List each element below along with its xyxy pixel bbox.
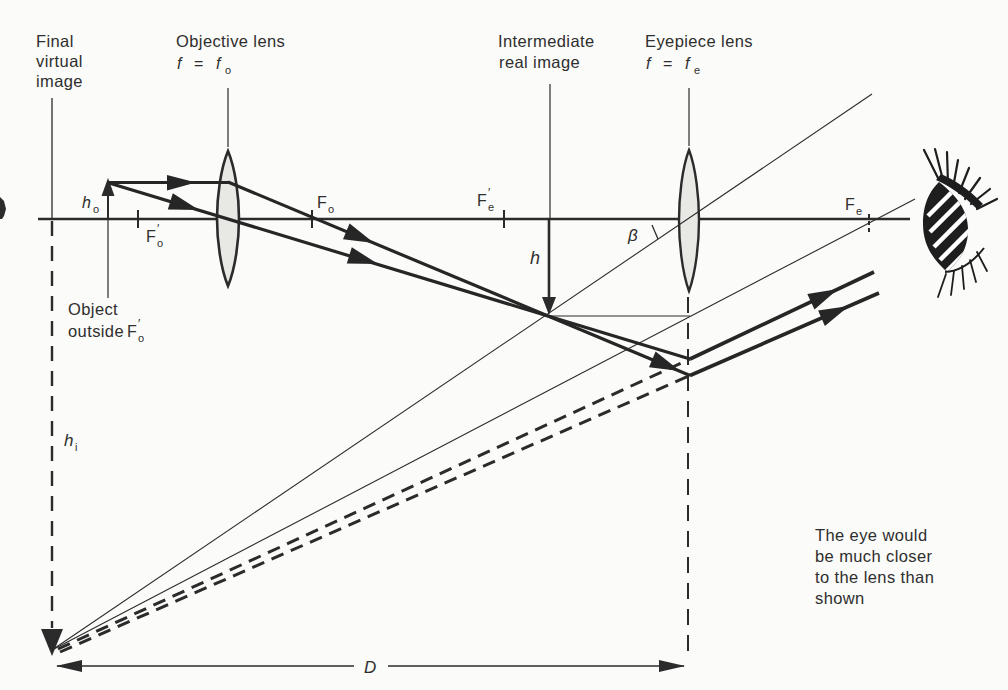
final-image-label: image [36, 72, 83, 90]
h-o-symbol: h [82, 194, 91, 211]
ray-central-to-eyepiece [548, 316, 690, 359]
beta-angle-tick [652, 225, 658, 239]
eye-note: The eye would [815, 526, 928, 544]
final-image-label: virtual [36, 52, 83, 70]
ray-arrowhead [818, 306, 849, 326]
h-i-subscript: i [75, 441, 77, 453]
final-image-arrowhead [41, 629, 63, 656]
ray-arrowhead [343, 224, 374, 244]
D-arrowhead-right [659, 660, 685, 672]
page-edge-mark [0, 197, 6, 219]
eyepiece-focal-label: = [663, 55, 672, 72]
ray-arrowhead [347, 247, 378, 264]
eyepiece-focal-subscript: e [694, 64, 700, 76]
F-e-subscript: e [856, 205, 862, 217]
F-o-prime-subscript: o [157, 237, 163, 249]
F-o-subscript: o [328, 203, 334, 215]
intermediate-image-label: Intermediate [498, 32, 595, 50]
beta-symbol: β [627, 226, 638, 245]
eyepiece-lens [679, 150, 699, 291]
virtual-ray-extension-upper [58, 359, 690, 649]
eye-note: to the lens than [815, 568, 934, 586]
eyepiece-focal-label: f [646, 55, 652, 72]
objective-lens-label: Objective lens [176, 32, 285, 50]
ray-parallel-emergent [690, 293, 879, 376]
F-e-symbol: F [845, 196, 855, 213]
object-label-F-prime: ′ [138, 317, 141, 331]
object-label-F: F [127, 323, 137, 340]
object-label: Object [68, 300, 118, 318]
h-arrowhead [542, 297, 556, 315]
object-label-F-subscript: o [138, 332, 144, 344]
h-i-symbol: h [64, 431, 73, 450]
object-label: outside [68, 322, 124, 340]
ray-arrowhead [807, 289, 838, 310]
microscope-ray-diagram: Final virtual image Objective lens f = f… [0, 0, 1008, 690]
F-e-prime-prime: ′ [488, 186, 491, 200]
eye-note: be much closer [815, 547, 933, 565]
focal-ray-construction-line [52, 199, 915, 650]
objective-focal-subscript: o [225, 64, 231, 76]
objective-focal-label: = [194, 55, 203, 72]
eyepiece-lens-label: Eyepiece lens [645, 32, 753, 50]
F-o-prime-symbol: F [146, 228, 156, 245]
D-symbol: D [364, 658, 376, 677]
h-o-subscript: o [93, 203, 99, 215]
F-e-prime-subscript: e [488, 201, 494, 213]
virtual-ray-extension-lower [60, 376, 690, 653]
ray-central-emergent [690, 272, 874, 359]
eye-note: shown [815, 589, 865, 607]
objective-focal-label: f [177, 55, 183, 72]
F-o-symbol: F [317, 194, 327, 211]
objective-focal-label: f [216, 55, 222, 72]
F-o-prime-prime: ′ [157, 222, 160, 236]
intermediate-image-label: real image [499, 53, 580, 71]
object-arrowhead [102, 178, 115, 196]
h-symbol: h [530, 248, 540, 268]
D-arrowhead-left [56, 660, 82, 672]
eyepiece-focal-label: f [685, 55, 691, 72]
ray-parallel-refracted [228, 182, 548, 316]
ray-arrowhead [168, 193, 199, 210]
eye-illustration [923, 149, 997, 297]
final-image-label: Final [36, 32, 74, 50]
F-e-prime-symbol: F [477, 192, 487, 209]
ray-arrowhead [167, 175, 196, 191]
